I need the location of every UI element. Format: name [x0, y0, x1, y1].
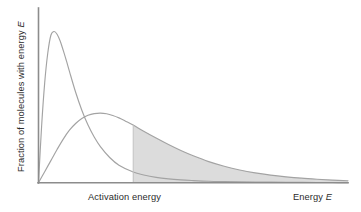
shaded-areas-group [133, 125, 348, 183]
energy-label-symbol: E [326, 192, 332, 202]
y-axis-label-text: Fraction of molecules with energy [16, 28, 26, 172]
y-axis-label-symbol: E [16, 21, 26, 27]
chart-plot-area [0, 0, 361, 212]
energy-label-text: Energy [293, 192, 326, 202]
y-axis-label: Fraction of molecules with energy E [17, 7, 26, 187]
x-axis-energy-label: Energy E [293, 193, 332, 202]
activation-energy-label-text: Activation energy [88, 192, 161, 202]
x-axis-activation-energy-label: Activation energy [88, 193, 161, 202]
chart-figure: Fraction of molecules with energy E Acti… [0, 0, 361, 212]
shaded-area-high-temperature [133, 125, 348, 183]
